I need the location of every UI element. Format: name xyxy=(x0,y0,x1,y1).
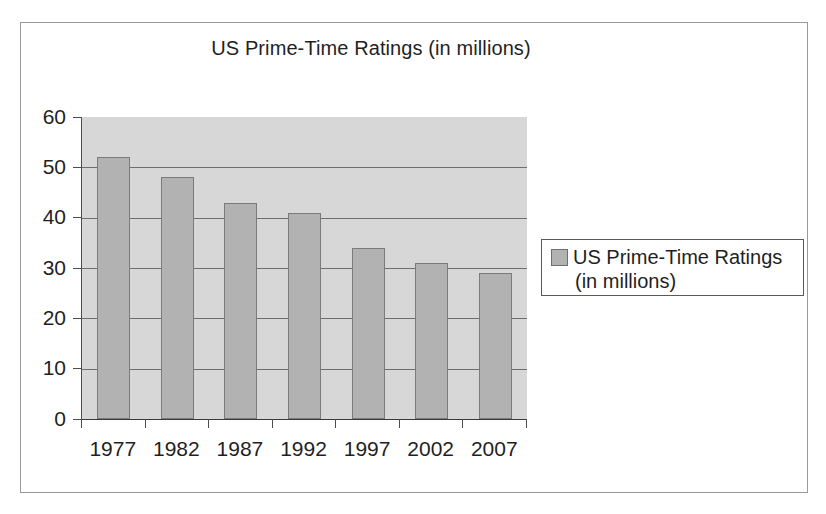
bar-slot xyxy=(336,117,400,419)
bar-2007[interactable] xyxy=(479,273,512,419)
y-tick-mark-30 xyxy=(73,268,81,269)
bar-slot xyxy=(209,117,273,419)
bar-slot xyxy=(273,117,337,419)
y-tick-label-30: 30 xyxy=(43,257,73,278)
x-tick-mark xyxy=(335,419,336,428)
y-tick-label-20: 20 xyxy=(43,307,73,328)
y-tick-label-60: 60 xyxy=(43,106,73,127)
x-axis-label-1997: 1997 xyxy=(335,437,399,461)
y-tick-label-10: 10 xyxy=(43,357,73,378)
y-tick-mark-60 xyxy=(73,117,81,118)
plot-area xyxy=(81,117,527,419)
y-tick-label-40: 40 xyxy=(43,206,73,227)
bar-1992[interactable] xyxy=(288,213,321,419)
y-axis: 0 10 20 30 40 50 60 xyxy=(21,117,81,419)
y-tick-mark-50 xyxy=(73,167,81,168)
bar-1987[interactable] xyxy=(224,203,257,419)
chart-title: US Prime-Time Ratings (in millions) xyxy=(21,37,721,60)
y-tick-mark-20 xyxy=(73,318,81,319)
legend-label-line2: (in millions) xyxy=(573,269,782,293)
y-tick-label-50: 50 xyxy=(43,156,73,177)
x-axis-label-1992: 1992 xyxy=(272,437,336,461)
x-tick-mark xyxy=(526,419,527,428)
x-tick-mark xyxy=(208,419,209,428)
bar-1977[interactable] xyxy=(97,157,130,419)
chart-frame: US Prime-Time Ratings (in millions) 0 10… xyxy=(20,22,808,493)
x-axis-label-1987: 1987 xyxy=(208,437,272,461)
bar-slot xyxy=(146,117,210,419)
y-tick-mark-0 xyxy=(73,419,81,420)
x-tick-mark xyxy=(399,419,400,428)
y-tick-mark-40 xyxy=(73,217,81,218)
legend-swatch-icon xyxy=(551,249,568,266)
x-axis-label-2007: 2007 xyxy=(462,437,526,461)
y-tick-mark-10 xyxy=(73,368,81,369)
legend: US Prime-Time Ratings (in millions) xyxy=(541,239,804,296)
x-axis-label-2002: 2002 xyxy=(399,437,463,461)
legend-label-line1: US Prime-Time Ratings xyxy=(573,246,782,268)
x-axis-label-1982: 1982 xyxy=(145,437,209,461)
x-tick-mark xyxy=(462,419,463,428)
x-axis-labels: 1977198219871992199720022007 xyxy=(81,437,526,461)
x-axis-line xyxy=(81,419,526,420)
bar-series xyxy=(82,117,527,419)
bar-2002[interactable] xyxy=(415,263,448,419)
bar-1997[interactable] xyxy=(352,248,385,419)
x-tick-mark xyxy=(145,419,146,428)
x-tick-mark xyxy=(81,419,82,428)
bar-slot xyxy=(400,117,464,419)
x-axis: 1977198219871992199720022007 xyxy=(81,419,526,477)
x-axis-label-1977: 1977 xyxy=(81,437,145,461)
bar-1982[interactable] xyxy=(161,177,194,419)
x-tick-mark xyxy=(272,419,273,428)
bar-slot xyxy=(82,117,146,419)
y-tick-label-0: 0 xyxy=(54,408,73,429)
legend-label: US Prime-Time Ratings (in millions) xyxy=(573,245,782,293)
legend-entry: US Prime-Time Ratings (in millions) xyxy=(551,245,797,293)
bar-slot xyxy=(463,117,527,419)
